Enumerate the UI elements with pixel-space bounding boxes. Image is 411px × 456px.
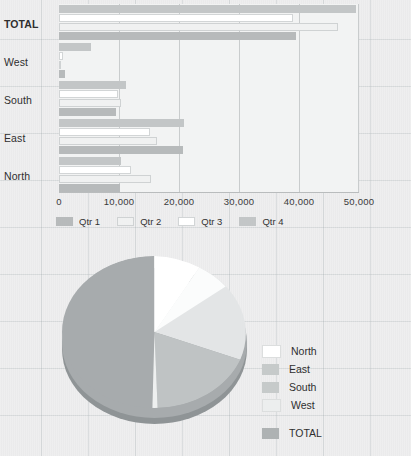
pie-chart-legend: North East South West TOTAL bbox=[262, 342, 322, 442]
xtick-20000: 20,000 bbox=[164, 196, 194, 207]
bar-total-qtr4 bbox=[59, 5, 356, 13]
bar-east-qtr1 bbox=[59, 146, 183, 154]
legend-swatch-qtr4 bbox=[239, 217, 256, 226]
pie-legend-label-east: East bbox=[289, 363, 310, 375]
pie-legend-label-total: TOTAL bbox=[289, 427, 322, 439]
gridline-40000 bbox=[299, 4, 300, 192]
xtick-40000: 40,000 bbox=[284, 196, 314, 207]
pie-legend-swatch-east bbox=[262, 364, 279, 375]
legend-swatch-qtr3 bbox=[178, 217, 195, 226]
pie-legend-label-west: West bbox=[291, 399, 315, 411]
pie-legend-swatch-total bbox=[262, 428, 279, 439]
bar-north-qtr4 bbox=[59, 157, 121, 165]
legend-label-qtr2: Qtr 2 bbox=[140, 216, 161, 227]
pie-legend-label-north: North bbox=[291, 345, 317, 357]
legend-item-qtr1: Qtr 1 bbox=[56, 216, 100, 227]
pie-legend-item-total: TOTAL bbox=[262, 424, 322, 442]
pie-chart-graphic bbox=[62, 250, 247, 425]
bar-west-qtr2 bbox=[59, 61, 61, 69]
pie-legend-spacer bbox=[262, 414, 322, 424]
pie-legend-item-south: South bbox=[262, 378, 322, 396]
pie-legend-swatch-south bbox=[262, 382, 279, 393]
bar-west-qtr4 bbox=[59, 43, 91, 51]
pie-legend-item-west: West bbox=[262, 396, 322, 414]
bar-east-qtr4 bbox=[59, 119, 184, 127]
bar-south-qtr3 bbox=[59, 90, 118, 98]
pie-legend-item-north: North bbox=[262, 342, 322, 360]
legend-item-qtr4: Qtr 4 bbox=[239, 216, 283, 227]
legend-label-qtr1: Qtr 1 bbox=[79, 216, 100, 227]
xtick-30000: 30,000 bbox=[224, 196, 254, 207]
bar-total-qtr3 bbox=[59, 14, 293, 22]
bar-chart-legend: Qtr 1 Qtr 2 Qtr 3 Qtr 4 bbox=[56, 216, 301, 227]
gridline-50000 bbox=[358, 4, 359, 192]
legend-item-qtr2: Qtr 2 bbox=[117, 216, 161, 227]
bar-east-qtr3 bbox=[59, 128, 150, 136]
xtick-10000: 10,000 bbox=[104, 196, 134, 207]
category-label-total: TOTAL bbox=[4, 18, 56, 30]
pie-top-face bbox=[62, 256, 247, 408]
legend-swatch-qtr1 bbox=[56, 217, 73, 226]
pie-chart: North East South West TOTAL bbox=[0, 246, 411, 456]
bar-north-qtr1 bbox=[59, 184, 120, 192]
category-label-east: East bbox=[4, 132, 56, 144]
horizontal-bar-chart: TOTAL West South East North 0 10,000 20,… bbox=[0, 0, 411, 245]
legend-swatch-qtr2 bbox=[117, 217, 134, 226]
bar-south-qtr2 bbox=[59, 99, 121, 107]
bar-chart-plot-area bbox=[59, 4, 359, 192]
bar-north-qtr2 bbox=[59, 175, 151, 183]
bar-total-qtr2 bbox=[59, 23, 338, 31]
bar-west-qtr3 bbox=[59, 52, 63, 60]
legend-label-qtr4: Qtr 4 bbox=[262, 216, 283, 227]
category-label-south: South bbox=[4, 94, 56, 106]
bar-south-qtr4 bbox=[59, 81, 126, 89]
category-label-west: West bbox=[4, 56, 56, 68]
x-axis-line bbox=[59, 192, 359, 193]
bar-east-qtr2 bbox=[59, 137, 157, 145]
pie-legend-label-south: South bbox=[289, 381, 316, 393]
bar-north-qtr3 bbox=[59, 166, 131, 174]
pie-legend-swatch-west bbox=[262, 399, 281, 412]
bar-south-qtr1 bbox=[59, 108, 116, 116]
legend-label-qtr3: Qtr 3 bbox=[201, 216, 222, 227]
xtick-0: 0 bbox=[56, 196, 61, 207]
pie-legend-swatch-north bbox=[262, 345, 281, 358]
bar-total-qtr1 bbox=[59, 32, 296, 40]
category-label-north: North bbox=[4, 170, 56, 182]
legend-item-qtr3: Qtr 3 bbox=[178, 216, 222, 227]
bar-west-qtr1 bbox=[59, 70, 65, 78]
pie-legend-item-east: East bbox=[262, 360, 322, 378]
xtick-50000: 50,000 bbox=[344, 196, 374, 207]
